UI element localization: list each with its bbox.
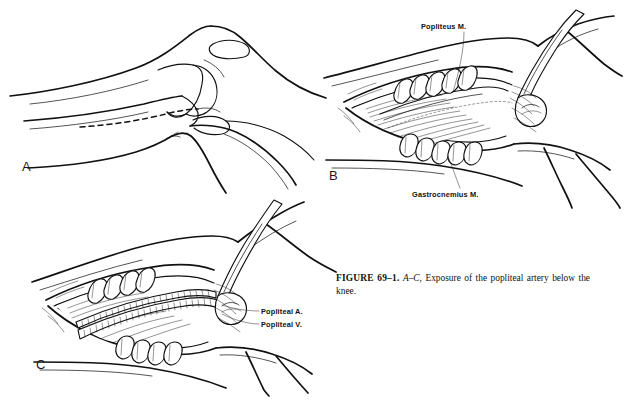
figure-caption-label: FIGURE 69–1. (336, 273, 399, 283)
figure-caption-line1: Exposure of the popliteal artery below (425, 273, 575, 283)
popliteus-muscle-label: Popliteus M. (421, 22, 466, 31)
surgical-retractor-instrument (515, 10, 584, 127)
panel-letter-c: C (36, 357, 46, 372)
panel-letter-a: A (22, 159, 31, 174)
gastrocnemius-muscle-label: Gastrocnemius M. (412, 190, 478, 199)
panel-b-superficial-exposure (322, 8, 622, 208)
popliteal-artery-label: Popliteal A. (261, 307, 303, 316)
figure-caption-panels: A–C, (403, 273, 422, 283)
panel-c-deep-exposure (28, 196, 338, 396)
figure-illustration: A (0, 0, 628, 407)
popliteal-vein-label: Popliteal V. (261, 320, 302, 329)
panel-a-knee-profile (8, 8, 328, 193)
figure-caption: FIGURE 69–1. A–C, Exposure of the poplit… (336, 272, 590, 297)
panel-letter-b: B (329, 168, 338, 183)
